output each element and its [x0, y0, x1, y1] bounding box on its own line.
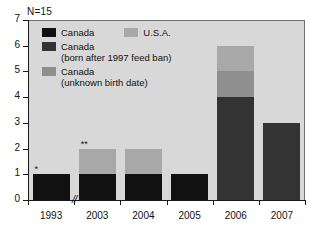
legend-sublabel: (born after 1997 feed ban) [61, 52, 171, 63]
legend-entry[interactable]: Canada(born after 1997 feed ban) [42, 41, 171, 63]
legend-swatch [124, 28, 138, 37]
legend-swatch [42, 42, 56, 51]
bar-segment[interactable] [125, 149, 162, 175]
bar-footnote-marker: * [35, 165, 39, 173]
bar-segment[interactable] [263, 123, 300, 200]
bar-footnote-marker: ** [81, 140, 88, 148]
bar-stack[interactable] [217, 46, 254, 200]
bar-stack[interactable] [263, 123, 300, 200]
bar-segment[interactable] [217, 97, 254, 200]
legend-row: CanadaU.S.A. [42, 27, 171, 38]
legend-swatch [42, 67, 56, 76]
chart-figure: N=15 01234567 199320032004200520062007//… [0, 0, 310, 233]
bar-stack[interactable] [33, 174, 70, 200]
bar-stack[interactable] [171, 174, 208, 200]
bar-stack[interactable] [125, 149, 162, 200]
chart-legend: CanadaU.S.A.Canada(born after 1997 feed … [42, 27, 171, 91]
legend-row: Canada(unknown birth date) [42, 66, 171, 88]
legend-entry[interactable]: Canada [42, 27, 94, 38]
bar-segment[interactable] [171, 174, 208, 200]
legend-label: Canada(unknown birth date) [61, 66, 148, 88]
legend-swatch [42, 28, 56, 37]
bar-segment[interactable] [217, 46, 254, 72]
bar-segment[interactable] [79, 174, 116, 200]
legend-label: U.S.A. [143, 27, 170, 38]
bar-segment[interactable] [33, 174, 70, 200]
bar-segment[interactable] [79, 149, 116, 175]
legend-entry[interactable]: U.S.A. [124, 27, 170, 38]
bar-segment[interactable] [125, 174, 162, 200]
legend-entry[interactable]: Canada(unknown birth date) [42, 66, 148, 88]
bar-stack[interactable] [79, 149, 116, 200]
legend-label: Canada [61, 27, 94, 38]
bar-segment[interactable] [217, 71, 254, 97]
legend-row: Canada(born after 1997 feed ban) [42, 41, 171, 63]
legend-sublabel: (unknown birth date) [61, 77, 148, 88]
legend-label: Canada(born after 1997 feed ban) [61, 41, 171, 63]
